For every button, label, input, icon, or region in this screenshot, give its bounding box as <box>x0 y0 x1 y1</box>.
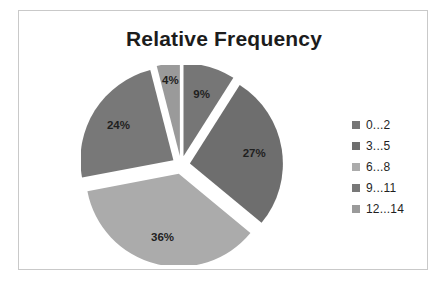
legend-item-label: 0...2 <box>366 118 390 132</box>
legend-item-label: 9...11 <box>366 181 396 195</box>
pie-chart-svg: 9%27%36%24%4% <box>81 65 286 265</box>
legend-item-label: 6...8 <box>366 160 390 174</box>
legend-item[interactable]: 6...8 <box>352 157 432 177</box>
legend-item-label: 12...14 <box>366 202 404 216</box>
pie-slice-label: 4% <box>162 74 179 86</box>
chart-legend: 0...23...56...89...1112...14 <box>352 115 432 220</box>
legend-swatch-icon <box>352 205 360 213</box>
pie-slice-label: 27% <box>243 147 266 159</box>
pie-plot-area: 9%27%36%24%4% <box>81 65 286 265</box>
legend-swatch-icon <box>352 121 360 129</box>
legend-swatch-icon <box>352 163 360 171</box>
pie-slice-label: 9% <box>193 88 210 100</box>
chart-frame: Relative Frequency 9%27%36%24%4% 0...23.… <box>18 10 428 270</box>
pie-slice-label: 36% <box>151 231 174 243</box>
legend-item[interactable]: 12...14 <box>352 199 432 219</box>
legend-item[interactable]: 3...5 <box>352 136 432 156</box>
legend-swatch-icon <box>352 142 360 150</box>
chart-title: Relative Frequency <box>19 27 429 51</box>
legend-item[interactable]: 0...2 <box>352 115 432 135</box>
legend-swatch-icon <box>352 184 360 192</box>
legend-item-label: 3...5 <box>366 139 390 153</box>
pie-slices-group <box>81 65 283 265</box>
legend-item[interactable]: 9...11 <box>352 178 432 198</box>
pie-slice-label: 24% <box>107 119 130 131</box>
chart-screenshot: Relative Frequency 9%27%36%24%4% 0...23.… <box>0 0 448 290</box>
